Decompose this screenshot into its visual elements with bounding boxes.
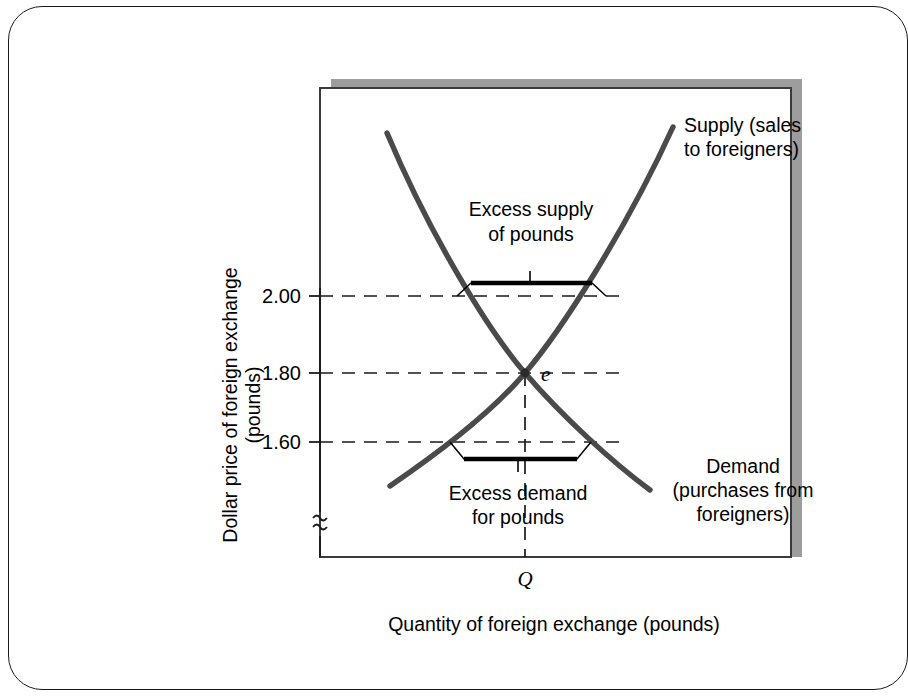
y-tick-label-1-60: 1.60 [262, 431, 301, 453]
demand-label-line2: (purchases from [673, 479, 814, 501]
excess-supply-label-line1: Excess supply [469, 198, 594, 220]
equilibrium-label-e: e [541, 362, 550, 386]
y-axis-title-line1: Dollar price of foreign exchange [219, 267, 241, 542]
y-tick-label-1-80: 1.80 [262, 362, 301, 384]
y-axis-title-line2: (pounds) [242, 367, 264, 444]
demand-label-line3: foreigners) [696, 503, 789, 525]
y-tick-label-2-00: 2.00 [262, 285, 301, 307]
excess-demand-label-line1: Excess demand [449, 482, 588, 504]
excess-supply-label-line2: of pounds [488, 223, 574, 245]
equilibrium-point-marker [521, 369, 530, 378]
demand-label-line1: Demand [706, 455, 780, 477]
supply-label-line1: Supply (sales [684, 114, 801, 136]
supply-label-line2: to foreigners) [684, 138, 799, 160]
x-equilibrium-label-Q: Q [517, 567, 532, 591]
x-axis-title: Quantity of foreign exchange (pounds) [388, 613, 720, 635]
excess-demand-label-line2: for pounds [472, 506, 564, 528]
